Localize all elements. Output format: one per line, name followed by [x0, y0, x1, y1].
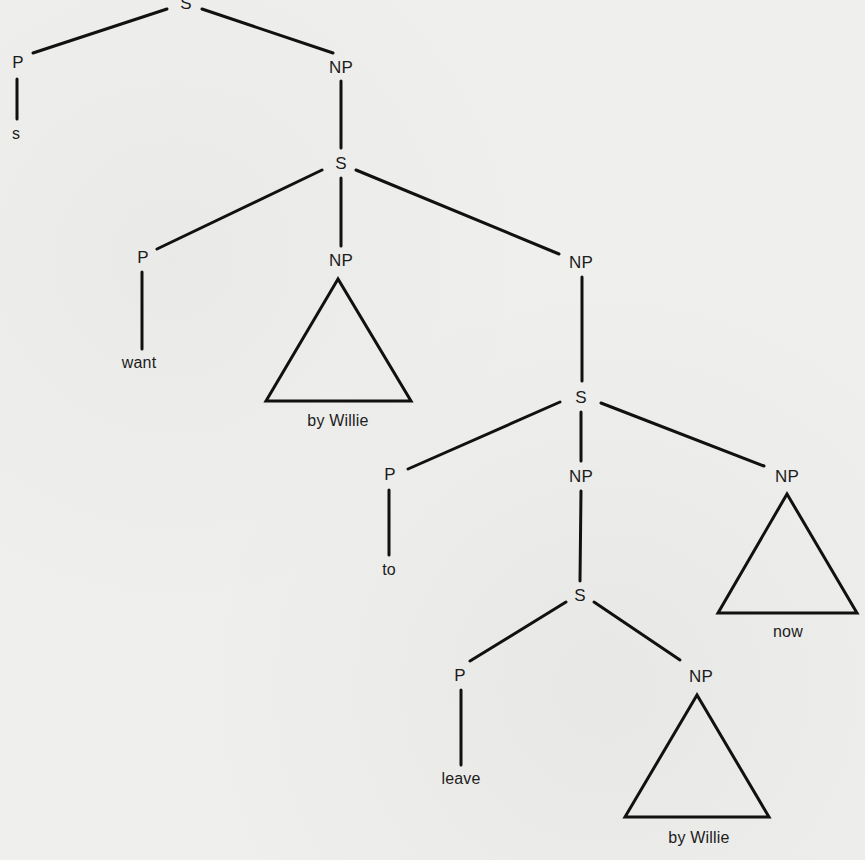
edge-s_4-to-p_4	[470, 602, 566, 661]
edge-s_4-to-np_6	[594, 602, 680, 660]
edge-np_4-to-s_4	[580, 491, 581, 581]
triangle-np_5	[718, 494, 857, 613]
node-p-3: P	[384, 466, 396, 483]
node-leaf-to: to	[382, 562, 396, 578]
node-leaf-by-willie-1: by Willie	[307, 413, 368, 429]
node-s-4: S	[574, 587, 586, 604]
node-s-2: S	[335, 155, 347, 172]
node-p-4: P	[454, 667, 466, 684]
edge-s_3-to-p_3	[408, 402, 560, 469]
node-p-1: P	[12, 54, 24, 71]
triangle-np_6	[625, 695, 769, 817]
node-leaf-leave: leave	[441, 771, 480, 787]
node-leaf-s: s	[12, 126, 20, 142]
node-np-1: NP	[329, 59, 353, 76]
node-p-2: P	[137, 249, 149, 266]
edge-s_root-to-p_1	[33, 9, 167, 53]
triangle-np_2	[266, 279, 411, 401]
node-leaf-want: want	[122, 355, 157, 371]
node-np-4: NP	[569, 468, 593, 485]
edge-s_3-to-np_5	[601, 403, 764, 466]
node-np-2: NP	[329, 252, 353, 269]
node-np-5: NP	[775, 468, 799, 485]
edge-s_2-to-p_2	[157, 170, 322, 249]
tree-edges	[17, 9, 764, 765]
edge-s_2-to-np_3	[356, 170, 559, 254]
node-s-root: S	[180, 0, 192, 12]
syntax-tree-diagram	[0, 0, 865, 860]
tree-triangles	[266, 279, 857, 817]
node-leaf-by-willie-2: by Willie	[668, 830, 729, 846]
edge-s_root-to-np_1	[202, 9, 333, 53]
node-leaf-now: now	[773, 624, 803, 640]
node-np-6: NP	[689, 668, 713, 685]
node-s-3: S	[575, 389, 587, 406]
node-np-3: NP	[569, 254, 593, 271]
